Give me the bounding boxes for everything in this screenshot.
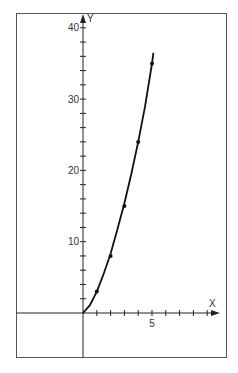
y-tick-label: 10 <box>68 236 80 247</box>
y-tick-label: 30 <box>68 94 80 105</box>
y-tick-label: 40 <box>68 22 80 33</box>
x-tick-label: 5 <box>149 318 155 329</box>
data-points <box>95 61 154 293</box>
tick-labels: 510203040 <box>68 22 155 329</box>
x-axis-label: X <box>209 298 216 309</box>
y-tick-label: 20 <box>68 165 80 176</box>
y-axis-arrow-icon <box>80 14 86 23</box>
data-point <box>150 61 154 65</box>
data-point <box>95 290 99 294</box>
data-point <box>109 254 113 258</box>
chart-frame <box>17 14 227 358</box>
chart: 510203040 X Y <box>0 0 238 373</box>
x-axis-arrow-icon <box>211 310 220 316</box>
y-axis-label: Y <box>87 13 94 24</box>
data-point <box>122 204 126 208</box>
ticks <box>80 28 207 316</box>
axes <box>17 14 221 357</box>
fitted-curve <box>83 53 153 313</box>
data-point <box>136 140 140 144</box>
